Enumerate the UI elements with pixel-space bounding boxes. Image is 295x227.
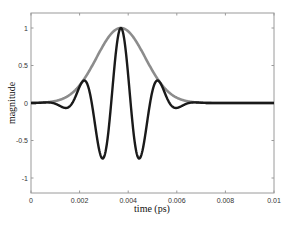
y-tick-label: -0.5 [16, 137, 28, 144]
x-tick-label: 0 [29, 197, 33, 204]
chart: 00.0020.0040.0060.0080.01 10.50-0.5-1 ti… [0, 0, 295, 227]
x-tick-label: 0.008 [217, 197, 235, 204]
x-tick-label: 0.002 [71, 197, 89, 204]
y-tick-label: -1 [22, 175, 28, 182]
x-axis-label: time (ps) [134, 203, 170, 215]
x-tick-label: 0.006 [168, 197, 186, 204]
y-tick-label: 0 [24, 100, 28, 107]
y-tick-label: 1 [24, 25, 28, 32]
y-axis-label: magnitude [6, 81, 17, 124]
y-tick-label: 0.5 [18, 62, 28, 69]
y-tick-labels: 10.50-0.5-1 [16, 25, 28, 182]
x-tick-label: 0.01 [267, 197, 281, 204]
